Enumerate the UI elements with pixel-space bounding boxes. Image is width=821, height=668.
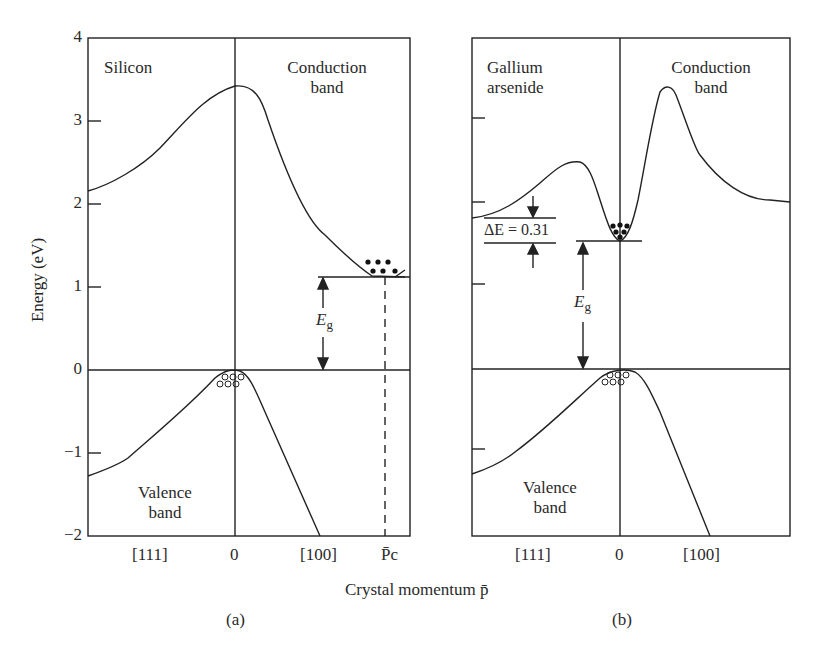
y-tick-1: 1 <box>52 276 82 296</box>
panel-a-valence-label: Valence band <box>120 483 210 524</box>
y-tick-2: 2 <box>52 193 82 213</box>
panel-b-conduction-line1: Conduction <box>656 58 766 78</box>
panel-b-material-line1: Gallium <box>487 58 544 78</box>
panel-b-material-label: Gallium arsenide <box>487 58 544 99</box>
y-tick-0: 0 <box>52 359 82 379</box>
panel-b-valence-line2: band <box>505 498 595 518</box>
panel-b-eg-sub: g <box>584 299 591 314</box>
panel-a-frame <box>88 38 410 536</box>
panel-b-caption: (b) <box>612 610 632 630</box>
band-diagram-graphics <box>0 0 821 668</box>
panel-b-xtick-111: [111] <box>515 545 551 565</box>
panel-a-eg-label: Eg <box>316 310 333 333</box>
panel-a-valence-line2: band <box>120 503 210 523</box>
panel-b-valence-label: Valence band <box>505 478 595 519</box>
panel-a-conduction-label: Conduction band <box>272 58 382 99</box>
y-tick-neg1: −1 <box>52 442 82 462</box>
panel-a-xtick-0: 0 <box>230 545 239 565</box>
y-tick-neg2: −2 <box>52 525 82 545</box>
panel-b-material-line2: arsenide <box>487 78 544 98</box>
panel-a-xtick-111: [111] <box>132 545 168 565</box>
panel-a-eg-symbol: E <box>316 310 326 329</box>
panel-b-xtick-0: 0 <box>615 545 624 565</box>
panel-b-frame <box>472 38 790 536</box>
panel-a-eg-sub: g <box>326 317 333 332</box>
panel-b-delta-e-label: ΔE = 0.31 <box>484 220 549 239</box>
si-electrons <box>365 259 397 273</box>
panel-b-conduction-line2: band <box>656 78 766 98</box>
panel-a-valence-line1: Valence <box>120 483 210 503</box>
si-holes <box>217 374 244 387</box>
panel-b-eg-label: Eg <box>574 292 591 315</box>
panel-a-conduction-line2: band <box>272 78 382 98</box>
panel-a-xtick-100: [100] <box>300 545 337 565</box>
x-axis-label: Crystal momentum p̄ <box>345 580 489 600</box>
panel-b-eg-symbol: E <box>574 292 584 311</box>
y-tick-4: 4 <box>52 27 82 47</box>
panel-b-valence-line1: Valence <box>505 478 595 498</box>
panel-a-caption: (a) <box>226 610 245 630</box>
si-conduction-band <box>88 86 405 277</box>
panel-b-xtick-100: [100] <box>683 545 720 565</box>
panel-b-conduction-label: Conduction band <box>656 58 766 99</box>
y-axis-label: Energy (eV) <box>28 220 48 340</box>
y-tick-3: 3 <box>52 110 82 130</box>
panel-a-xtick-pc: P̄c <box>381 545 398 565</box>
panel-a-material-label: Silicon <box>104 58 152 78</box>
panel-a-conduction-line1: Conduction <box>272 58 382 78</box>
